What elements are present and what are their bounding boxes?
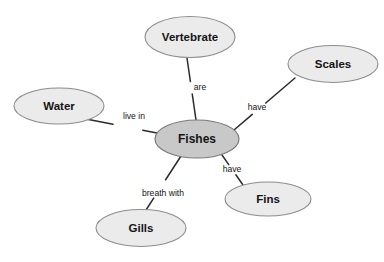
node-vertebrate[interactable]: Vertebrate — [145, 17, 235, 58]
edge-segment — [187, 58, 190, 82]
node-scales[interactable]: Scales — [288, 46, 378, 83]
node-fins[interactable]: Fins — [225, 182, 311, 216]
edge-segment — [146, 198, 154, 210]
edge-fishes-gills — [146, 156, 181, 210]
edge-segment — [166, 156, 181, 180]
node-label-fins: Fins — [256, 193, 280, 205]
nodes-layer: VertebrateScalesWaterFishesFinsGills — [14, 17, 378, 247]
node-label-water: Water — [43, 100, 75, 112]
node-label-gills: Gills — [129, 222, 154, 234]
edge-segment — [234, 114, 252, 130]
edge-label-fishes-fins: have — [223, 164, 242, 174]
edge-label-fishes-gills: breath with — [142, 188, 184, 198]
edge-label-fishes-vertebrate: are — [194, 82, 207, 92]
edge-segment — [192, 94, 196, 120]
edge-segment — [86, 119, 113, 124]
concept-map-canvas: VertebrateScalesWaterFishesFinsGills are… — [0, 0, 384, 262]
concept-map-graph: VertebrateScalesWaterFishesFinsGills are… — [0, 0, 384, 262]
node-water[interactable]: Water — [14, 88, 104, 124]
node-label-fishes: Fishes — [178, 132, 216, 146]
edge-segment — [236, 175, 243, 185]
edge-segment — [222, 155, 229, 165]
edge-segment — [266, 78, 295, 103]
node-fishes[interactable]: Fishes — [155, 120, 239, 158]
node-label-vertebrate: Vertebrate — [162, 31, 218, 43]
edge-fishes-water — [86, 119, 157, 133]
edge-segment — [143, 130, 157, 133]
edge-label-fishes-water: live in — [123, 111, 145, 121]
node-gills[interactable]: Gills — [96, 210, 186, 247]
edge-label-fishes-scales: have — [248, 102, 267, 112]
node-label-scales: Scales — [315, 58, 351, 70]
